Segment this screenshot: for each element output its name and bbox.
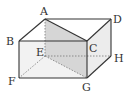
label-b: B bbox=[6, 35, 14, 48]
label-d: D bbox=[113, 13, 122, 26]
label-h: H bbox=[114, 52, 124, 65]
label-a: A bbox=[39, 5, 49, 18]
label-c: C bbox=[89, 42, 97, 55]
edge-ab bbox=[19, 19, 45, 41]
cuboid-diagram: A B C D E F G H bbox=[0, 0, 130, 98]
label-f: F bbox=[8, 75, 16, 88]
label-g: G bbox=[82, 81, 91, 94]
label-e: E bbox=[36, 46, 44, 59]
